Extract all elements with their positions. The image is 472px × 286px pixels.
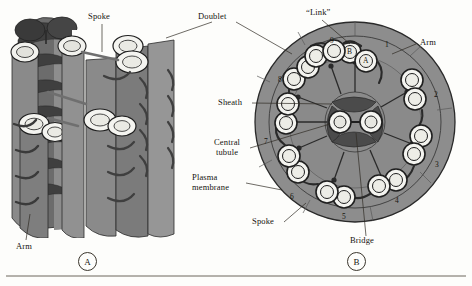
- doublet-column-right-group: [84, 36, 174, 238]
- doublet-number-9: 9: [330, 36, 334, 45]
- label-bridge: Bridge: [350, 236, 374, 246]
- label-panel-a-arm: Arm: [16, 242, 32, 252]
- label-doublet: Doublet: [198, 12, 226, 22]
- panel-marker-b: B: [347, 252, 366, 271]
- doublet-number-7: 7: [264, 137, 268, 146]
- label-spoke: Spoke: [252, 217, 274, 227]
- doublet-number-8: 8: [278, 75, 282, 84]
- panel-b-illustration: [255, 22, 455, 222]
- panel-marker-a: A: [78, 252, 97, 271]
- doublet-number-5: 5: [342, 212, 346, 221]
- subfiber-label-b: B: [347, 47, 352, 56]
- label-panel-a-spoke: Spoke: [88, 12, 110, 22]
- doublet-number-3: 3: [435, 160, 439, 169]
- label-sheath: Sheath: [218, 98, 242, 108]
- label-central-tubule: Central tubule: [214, 138, 240, 157]
- label-plasma-membrane: Plasma membrane: [192, 173, 229, 192]
- doublet-number-4: 4: [395, 196, 399, 205]
- doublet-number-1: 1: [385, 40, 389, 49]
- label-arm: Arm: [420, 38, 436, 48]
- doublet-column-mid: [58, 36, 86, 238]
- panel-a-illustration: [11, 17, 174, 238]
- subfiber-label-a: A: [363, 56, 368, 65]
- label-link: “Link”: [306, 8, 331, 18]
- doublet-number-2: 2: [434, 90, 438, 99]
- doublet-number-6: 6: [290, 192, 294, 201]
